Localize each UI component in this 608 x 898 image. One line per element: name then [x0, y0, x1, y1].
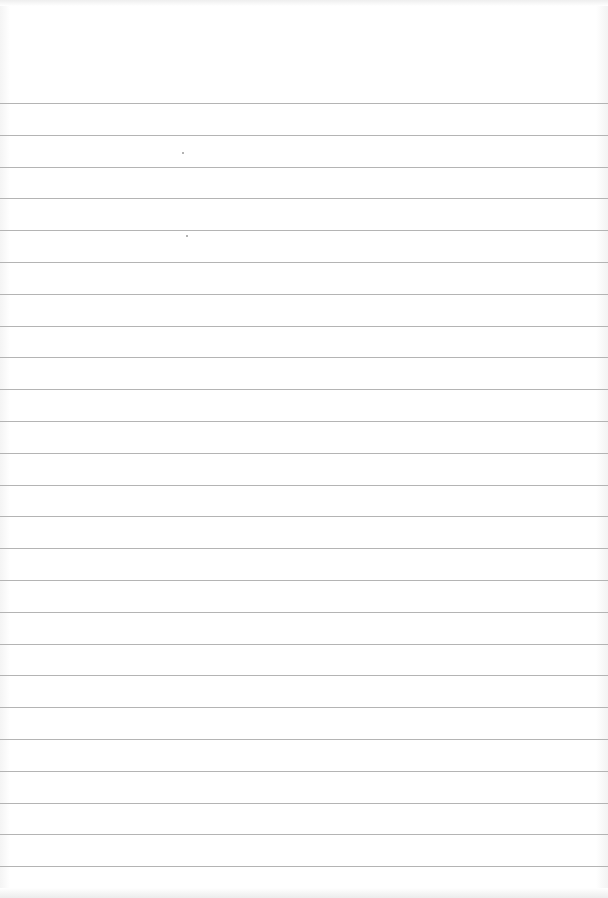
ruled-line [0, 644, 608, 645]
ruled-line [0, 167, 608, 168]
ruled-line [0, 612, 608, 613]
ruled-line [0, 135, 608, 136]
ruled-line [0, 485, 608, 486]
page-bottom-edge [0, 888, 608, 898]
paper-speck [186, 235, 188, 237]
ruled-line [0, 803, 608, 804]
ruled-line [0, 707, 608, 708]
ruled-line [0, 739, 608, 740]
ruled-line [0, 453, 608, 454]
ruled-line [0, 103, 608, 104]
ruled-line [0, 866, 608, 867]
ruled-line [0, 834, 608, 835]
ruled-line [0, 675, 608, 676]
ruled-line [0, 198, 608, 199]
ruled-paper-page [0, 0, 608, 898]
ruled-line [0, 580, 608, 581]
ruled-line [0, 230, 608, 231]
ruled-line [0, 294, 608, 295]
ruled-line [0, 389, 608, 390]
ruled-line [0, 771, 608, 772]
ruled-line [0, 262, 608, 263]
page-top-edge [0, 0, 608, 6]
ruled-line [0, 357, 608, 358]
ruled-line [0, 326, 608, 327]
ruled-line [0, 421, 608, 422]
ruled-line [0, 548, 608, 549]
ruled-line [0, 516, 608, 517]
paper-speck [182, 152, 184, 154]
